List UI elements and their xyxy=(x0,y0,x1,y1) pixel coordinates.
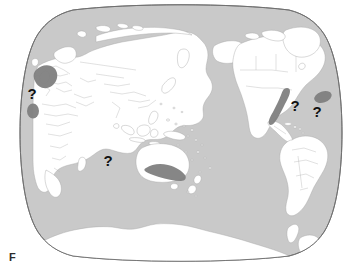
land-newfoundland xyxy=(299,63,306,69)
land-sri-lanka xyxy=(114,124,120,129)
land-tasmania xyxy=(171,184,179,190)
figure-root: ? ? ? ? F xyxy=(0,0,362,266)
marker-mid-atlantic[interactable]: ? xyxy=(312,103,321,120)
marker-ne-atlantic[interactable]: ? xyxy=(27,85,36,102)
marker-west-indian-ocean[interactable]: ? xyxy=(103,152,112,169)
land-antarctic-shelf-right xyxy=(298,235,321,257)
highlight-northwest-africa xyxy=(27,104,39,119)
land-iceland xyxy=(32,59,39,67)
caption-fragment: F xyxy=(9,252,21,263)
land-sulawesi xyxy=(151,129,159,137)
world-map: ? ? ? ? xyxy=(0,0,362,266)
marker-west-atlantic[interactable]: ? xyxy=(290,97,299,114)
